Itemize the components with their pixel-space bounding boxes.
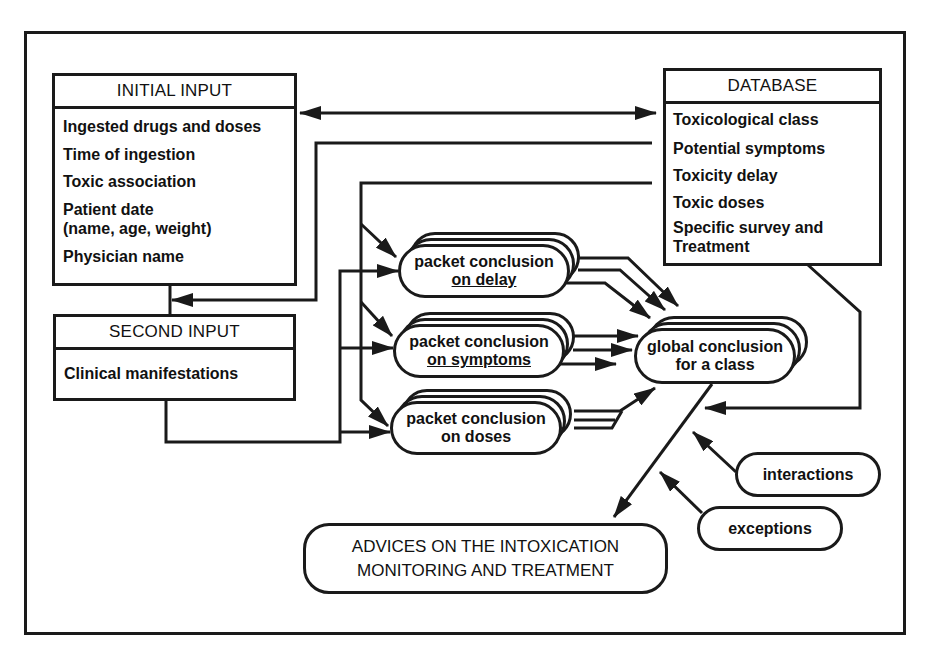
packet-label: on doses [406,428,546,446]
input-item: Clinical manifestations [64,364,293,383]
interactions-label: interactions [763,466,854,484]
advices-label: MONITORING AND TREATMENT [352,559,619,583]
packet-label: on delay [414,271,554,289]
packet-conclusion-doses: packet conclusionon doses [390,401,562,455]
input-item: Time of ingestion [63,145,294,164]
advices-label: ADVICES ON THE INTOXICATION [352,535,619,559]
input-item: (name, age, weight) [63,219,294,238]
database-item: Potential symptoms [673,139,879,158]
interactions-node: interactions [735,452,881,497]
input-item: Toxic association [63,172,294,191]
database-box: DATABASE Toxicological class Potential s… [663,68,882,266]
database-item: Toxicological class [673,110,879,129]
input-item: Physician name [63,247,294,266]
packet-conclusion-symptoms: packet conclusionon symptoms [393,324,565,378]
second-input-box: SECOND INPUT Clinical manifestations [53,314,296,401]
packet-conclusion-delay: packet conclusionon delay [398,244,570,298]
initial-input-box: INITIAL INPUT Ingested drugs and doses T… [52,73,297,286]
global-label: for a class [647,356,783,374]
global-label: global conclusion [647,338,783,356]
global-conclusion: global conclusionfor a class [634,328,796,384]
database-title: DATABASE [666,71,879,104]
input-item: Ingested drugs and doses [63,117,294,136]
packet-label: packet conclusion [409,333,549,351]
exceptions-label: exceptions [728,520,812,538]
packet-label: packet conclusion [414,253,554,271]
exceptions-node: exceptions [697,506,843,551]
database-item: Treatment [673,237,879,256]
packet-label: on symptoms [409,351,549,369]
second-input-title: SECOND INPUT [56,317,293,350]
advices-output: ADVICES ON THE INTOXICATIONMONITORING AN… [303,523,668,594]
database-item: Specific survey and [673,218,879,237]
initial-input-title: INITIAL INPUT [55,76,294,109]
input-item: Patient date [63,200,294,219]
database-item: Toxic doses [673,193,879,212]
packet-label: packet conclusion [406,410,546,428]
database-item: Toxicity delay [673,166,879,185]
